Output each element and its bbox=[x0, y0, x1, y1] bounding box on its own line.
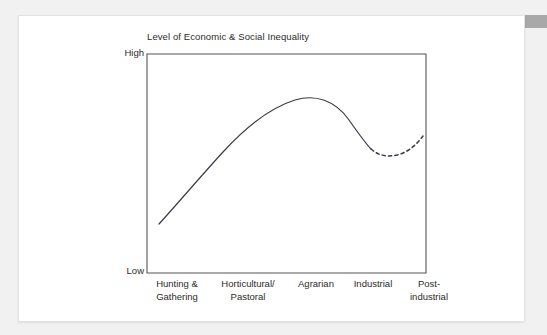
x-tick-post-industrial: Post- industrial bbox=[395, 278, 463, 303]
plot-svg bbox=[19, 16, 526, 323]
inequality-curve-solid bbox=[159, 98, 371, 224]
inequality-curve-dashed bbox=[371, 136, 423, 156]
x-axis-tick-labels: Hunting & Gathering Horticultural/ Pasto… bbox=[147, 278, 426, 318]
plot-frame bbox=[147, 54, 426, 273]
x-tick-agrarian: Agrarian bbox=[285, 278, 347, 291]
corner-accent-block bbox=[524, 15, 547, 28]
figure-card: Level of Economic & Social Inequality Hi… bbox=[18, 15, 525, 322]
chart-container: Level of Economic & Social Inequality Hi… bbox=[19, 16, 526, 323]
x-tick-horticultural-pastoral: Horticultural/ Pastoral bbox=[203, 278, 293, 303]
